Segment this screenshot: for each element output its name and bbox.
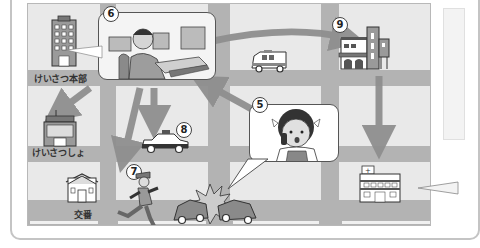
hq-to-operator-pointer [66, 44, 116, 64]
arrow-hq-to-firestation [208, 32, 348, 42]
koban-label: 交番 [74, 208, 91, 221]
hospital-building-icon: + [358, 164, 402, 204]
caller-girl-illustration [250, 105, 339, 162]
arrow-hq-to-station [58, 88, 90, 112]
side-panel [443, 8, 465, 140]
step-number-6: 6 [103, 6, 119, 22]
police-station-label: けいさつしょ [32, 146, 84, 159]
hospital-callout-pointer [418, 182, 458, 202]
ambulance-icon [250, 50, 290, 72]
fire-station-building-icon [339, 25, 393, 71]
operator-illustration [99, 13, 216, 80]
police-station-building-icon [42, 110, 78, 146]
town-map: けいさつ本部 6 9 [27, 3, 431, 226]
car-accident-icon [170, 180, 260, 226]
arrow-hq-to-koban [124, 88, 140, 156]
koban-building-icon [64, 172, 100, 202]
caller-panel [249, 104, 339, 162]
step-number-5: 5 [252, 97, 268, 113]
police-hq-label: けいさつ本部 [34, 72, 86, 85]
patrol-car-icon [140, 130, 190, 154]
running-officer-icon [112, 170, 162, 226]
